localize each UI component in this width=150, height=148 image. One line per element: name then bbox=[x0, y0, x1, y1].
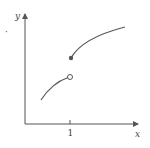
function-graph: · y x 1 bbox=[0, 0, 150, 148]
stray-mark: · bbox=[5, 27, 8, 37]
filled-dot-endpoint bbox=[69, 56, 73, 60]
x-tick-label-1: 1 bbox=[68, 128, 74, 138]
open-circle-endpoint bbox=[68, 75, 73, 80]
right-branch-curve bbox=[71, 27, 125, 58]
x-axis-label: x bbox=[135, 129, 140, 139]
y-axis-label: y bbox=[14, 11, 21, 21]
left-branch-curve bbox=[41, 78, 68, 101]
